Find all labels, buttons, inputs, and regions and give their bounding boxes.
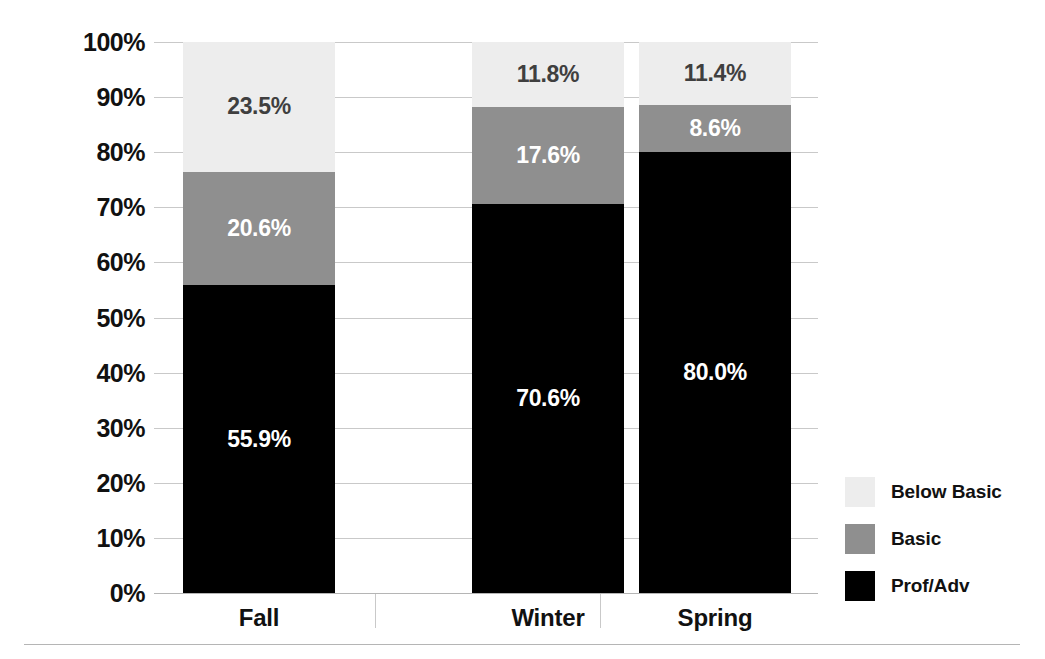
- legend-item-label: Basic: [891, 528, 941, 550]
- bar-segment-value-label: 11.8%: [517, 63, 579, 86]
- y-axis-tick-40: 40%: [35, 358, 145, 387]
- y-axis-tick-100: 100%: [35, 28, 145, 57]
- y-axis-tick-20: 20%: [35, 468, 145, 497]
- y-axis-tick-60: 60%: [35, 248, 145, 277]
- y-axis-tick-90: 90%: [35, 83, 145, 112]
- bar-segment-value-label: 23.5%: [227, 95, 291, 118]
- bar-segment-fall-below[interactable]: 23.5%: [183, 42, 335, 171]
- bar-segment-value-label: 70.6%: [516, 387, 580, 410]
- bar-segment-winter-basic[interactable]: 17.6%: [472, 107, 624, 204]
- bar-segment-value-label: 55.9%: [227, 428, 291, 451]
- legend-item-label: Below Basic: [891, 481, 1002, 503]
- gridline-0: [154, 593, 818, 594]
- y-axis-tick-70: 70%: [35, 193, 145, 222]
- legend-swatch-icon: [845, 571, 875, 601]
- x-axis-separator-1: [375, 594, 376, 628]
- bar-segment-spring-basic[interactable]: 8.6%: [639, 105, 791, 152]
- y-axis-tick-10: 10%: [35, 523, 145, 552]
- legend-item-below-basic[interactable]: Below Basic: [845, 468, 1035, 515]
- x-axis-rule: [24, 644, 1020, 645]
- plot-area: 55.9%20.6%23.5%70.6%17.6%11.8%80.0%8.6%1…: [154, 42, 818, 593]
- x-axis-separator-2: [600, 594, 601, 628]
- bar-segment-winter-profadv[interactable]: 70.6%: [472, 204, 624, 593]
- legend-item-basic[interactable]: Basic: [845, 515, 1035, 562]
- y-axis-tick-30: 30%: [35, 413, 145, 442]
- y-axis-tick-50: 50%: [35, 303, 145, 332]
- bar-segment-spring-below[interactable]: 11.4%: [639, 42, 791, 105]
- y-axis-tick-labels: 0%10%20%30%40%50%60%70%80%90%100%: [30, 0, 145, 659]
- legend-item-prof-adv[interactable]: Prof/Adv: [845, 562, 1035, 609]
- chart-legend: Below BasicBasicProf/Adv: [845, 468, 1035, 609]
- x-axis-label-spring: Spring: [609, 604, 821, 632]
- bar-segment-fall-basic[interactable]: 20.6%: [183, 172, 335, 286]
- bar-segment-value-label: 11.4%: [684, 62, 746, 85]
- bar-segment-fall-profadv[interactable]: 55.9%: [183, 285, 335, 593]
- x-axis-label-fall: Fall: [153, 604, 365, 632]
- legend-swatch-icon: [845, 524, 875, 554]
- y-axis-tick-80: 80%: [35, 138, 145, 167]
- bar-segment-value-label: 17.6%: [516, 144, 580, 167]
- bar-segment-value-label: 20.6%: [227, 217, 291, 240]
- legend-item-label: Prof/Adv: [891, 575, 969, 597]
- bar-segment-spring-profadv[interactable]: 80.0%: [639, 152, 791, 593]
- legend-swatch-icon: [845, 477, 875, 507]
- bar-segment-value-label: 8.6%: [689, 117, 740, 140]
- y-axis-tick-0: 0%: [35, 579, 145, 608]
- bar-segment-winter-below[interactable]: 11.8%: [472, 42, 624, 107]
- chart-canvas: Percentage of Students 0%10%20%30%40%50%…: [0, 0, 1045, 659]
- bar-segment-value-label: 80.0%: [683, 361, 747, 384]
